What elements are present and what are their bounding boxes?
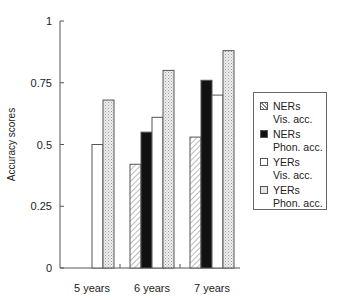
bar [163,70,174,268]
bar [201,80,212,268]
bar [190,137,201,268]
legend-swatch-icon [260,102,268,110]
bar [103,100,114,268]
y-tick-label: 1 [46,15,52,27]
x-category-label: 7 years [194,282,231,294]
legend-swatch-icon [260,186,268,194]
legend-swatch-icon [260,130,268,138]
y-tick-label: 0.25 [31,200,52,212]
bar [130,164,141,268]
legend: NERsVis. acc.NERsPhon. acc.YERsVis. acc.… [253,92,327,210]
y-tick-label: 0.5 [37,139,52,151]
y-axis-title: Accuracy scores [6,108,17,181]
bar [152,117,163,268]
y-tick-label: 0 [46,262,52,274]
bars [92,51,234,268]
bar [212,95,223,268]
bar [223,51,234,268]
y-tick-label: 0.75 [31,77,52,89]
legend-label-group: NERs [273,128,300,141]
bar [141,132,152,268]
legend-label-measure: Phon. acc. [273,141,323,154]
x-category-label: 6 years [134,282,171,294]
legend-label-measure: Vis. acc. [273,169,313,182]
legend-swatch-icon [260,158,268,166]
legend-label-group: NERs [273,100,300,113]
legend-label-group: YERs [273,156,300,169]
x-category-label: 5 years [74,282,111,294]
bar [92,145,103,269]
legend-label-group: YERs [273,184,300,197]
legend-label-measure: Phon. acc. [273,197,323,210]
legend-label-measure: Vis. acc. [273,113,313,126]
